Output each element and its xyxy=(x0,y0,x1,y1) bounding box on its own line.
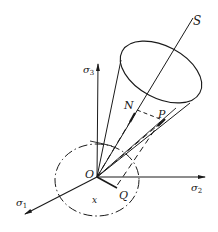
vector-ON-arrowhead xyxy=(130,113,135,122)
label-sigma3: σ3 xyxy=(83,64,94,77)
cone-diagram: S σ3 N P O Q x σ2 σ1 xyxy=(0,0,218,232)
cone-edge-right xyxy=(97,103,190,177)
label-Q: Q xyxy=(119,189,128,202)
label-P: P xyxy=(157,108,166,121)
angle-arc xyxy=(90,141,112,146)
label-N: N xyxy=(123,99,134,112)
label-sigma2: σ2 xyxy=(191,182,202,195)
label-S: S xyxy=(193,14,201,28)
sigma1-axis xyxy=(25,177,97,214)
vector-OQ xyxy=(97,177,117,188)
label-sigma1: σ1 xyxy=(16,197,27,210)
label-O: O xyxy=(85,168,94,181)
sigma3-axis xyxy=(97,64,98,177)
hydrostatic-axis-S xyxy=(97,18,193,177)
segment-NP xyxy=(137,110,160,119)
label-x: x xyxy=(92,195,97,205)
